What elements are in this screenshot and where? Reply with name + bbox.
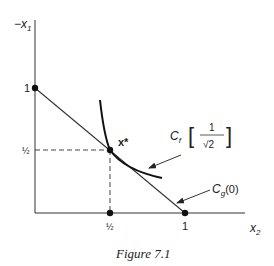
y-axis-label: −x1 [14, 17, 31, 33]
svg-text:Cg(0): Cg(0) [212, 182, 239, 198]
figure-canvas: −x1 x2 1 ½ ½ 1 x* Cf [ 1 √2 ] Cg(0) Figu… [0, 0, 274, 266]
x-tick-one: 1 [182, 220, 188, 232]
point-y-intercept [32, 85, 38, 91]
cf-label: Cf [ 1 √2 ] [170, 122, 232, 150]
x-star-label: x* [118, 136, 129, 148]
x-axis-label: x2 [249, 221, 261, 237]
svg-text:Cf: Cf [170, 129, 182, 145]
point-x-star [107, 147, 113, 153]
point-x-intercept [182, 210, 188, 216]
figure-caption: Figure 7.1 [115, 246, 170, 261]
svg-text:[: [ [188, 123, 194, 148]
svg-text:]: ] [226, 123, 232, 148]
point-x-half [107, 210, 113, 216]
y-tick-one: 1 [24, 82, 30, 94]
y-tick-half: ½ [22, 146, 30, 156]
x-tick-half: ½ [106, 222, 114, 232]
arrow-to-cf [149, 155, 181, 168]
cg-label: Cg(0) [212, 182, 239, 198]
arrow-to-cg [177, 190, 210, 203]
svg-text:√2: √2 [203, 139, 214, 150]
svg-text:1: 1 [209, 122, 215, 133]
